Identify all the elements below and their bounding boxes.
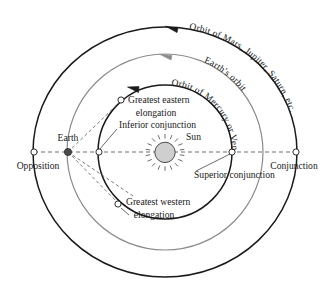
greatest-western-elongation-label-line1: Greatest western — [126, 196, 190, 207]
earth-orbit-direction-arrow-icon — [160, 54, 173, 60]
marker-greatest-western-elongation[interactable] — [115, 201, 121, 207]
superior-conjunction-label: Superior conjunction — [194, 169, 275, 180]
sun-label: Sun — [186, 131, 201, 142]
greatest-eastern-elongation-label-line1: Greatest eastern — [128, 94, 190, 105]
eastern-elongation-sight-line — [68, 98, 124, 152]
marker-earth[interactable] — [64, 148, 71, 155]
marker-inferior-conjunction[interactable] — [96, 149, 102, 155]
orbit-canvas: Orbit of Mars, Jupiter, Saturn, etc. Ear… — [0, 0, 330, 293]
greatest-western-elongation-label-line2: elongation — [134, 209, 175, 220]
marker-conjunction[interactable] — [293, 149, 299, 155]
sun-icon — [146, 134, 185, 171]
earth-tangent-line-lower — [68, 152, 133, 196]
inner-orbit-direction-arrow-icon — [128, 87, 140, 93]
conjunction-label: Conjunction — [270, 160, 318, 171]
marker-opposition[interactable] — [31, 149, 37, 155]
marker-greatest-eastern-elongation[interactable] — [118, 97, 124, 103]
western-elongation-sight-line — [68, 152, 121, 206]
orbital-diagram: Orbit of Mars, Jupiter, Saturn, etc. Ear… — [0, 0, 330, 293]
greatest-eastern-elongation-label-line2: elongation — [136, 107, 177, 118]
opposition-label: Opposition — [17, 160, 60, 171]
western-elongation-leader-line — [121, 208, 129, 215]
earth-label: Earth — [58, 132, 79, 143]
inferior-conjunction-label: Inferior conjunction — [119, 119, 196, 130]
earth-orbit-label: Earth's orbit — [203, 55, 249, 93]
